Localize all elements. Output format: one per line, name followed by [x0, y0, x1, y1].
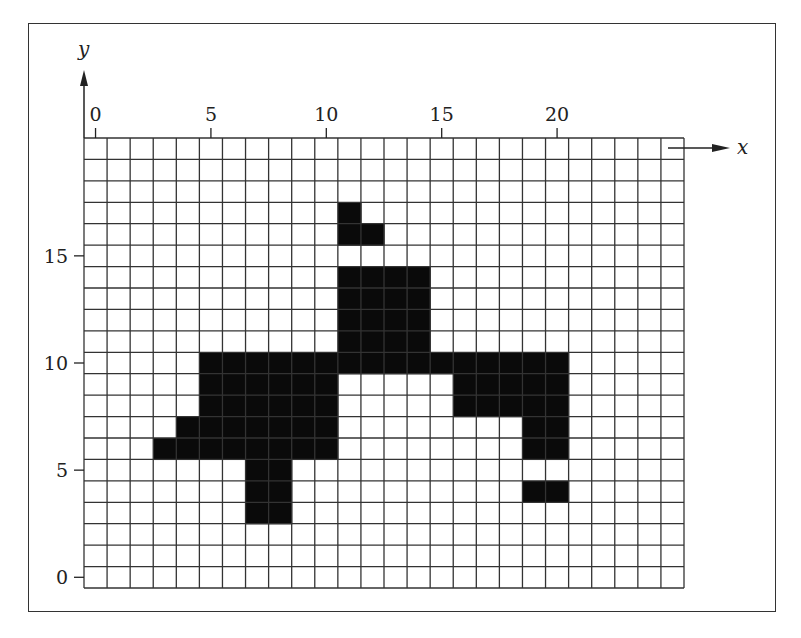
- filled-cell: [338, 352, 362, 374]
- filled-cell: [361, 288, 385, 310]
- filled-cell: [522, 374, 546, 396]
- filled-cell: [453, 395, 477, 417]
- filled-cell: [269, 502, 293, 524]
- filled-cell: [246, 417, 270, 439]
- y-tick-label: 10: [44, 352, 68, 374]
- filled-cell: [292, 417, 316, 439]
- filled-cell: [222, 395, 246, 417]
- x-axis-label: x: [737, 135, 748, 159]
- filled-cell: [269, 417, 293, 439]
- filled-cell: [269, 352, 293, 374]
- filled-cell: [246, 352, 270, 374]
- filled-cell: [269, 374, 293, 396]
- filled-cell: [246, 374, 270, 396]
- filled-cell: [176, 417, 200, 439]
- filled-cell: [292, 395, 316, 417]
- filled-cell: [546, 374, 570, 396]
- filled-cell: [338, 309, 362, 331]
- x-axis-arrowhead-icon: [712, 144, 730, 152]
- filled-cell: [384, 309, 408, 331]
- axes: y x: [77, 37, 748, 159]
- filled-cell: [476, 395, 500, 417]
- y-tick-label: 15: [44, 245, 68, 267]
- filled-cell: [361, 267, 385, 289]
- pixel-grid-diagram: y x 05101520 051015: [0, 0, 801, 638]
- filled-cell: [338, 224, 362, 246]
- filled-cell: [199, 417, 223, 439]
- y-tick-label: 0: [56, 566, 68, 588]
- y-tick-label: 5: [56, 459, 68, 481]
- filled-cell: [338, 202, 362, 224]
- filled-cell: [361, 331, 385, 353]
- filled-cell: [315, 395, 339, 417]
- filled-cell: [476, 352, 500, 374]
- filled-cell: [222, 352, 246, 374]
- filled-cell: [222, 438, 246, 460]
- filled-cell: [246, 459, 270, 481]
- filled-cell: [546, 481, 570, 503]
- filled-cell: [246, 502, 270, 524]
- filled-cell: [246, 481, 270, 503]
- filled-cell: [407, 331, 431, 353]
- filled-cell: [407, 288, 431, 310]
- filled-cell: [222, 374, 246, 396]
- filled-cell: [246, 395, 270, 417]
- filled-cell: [199, 438, 223, 460]
- filled-cell: [269, 459, 293, 481]
- x-tick-label: 0: [89, 103, 101, 125]
- filled-cell: [361, 309, 385, 331]
- x-tick-label: 5: [205, 103, 217, 125]
- filled-cell: [430, 352, 454, 374]
- filled-cell: [269, 438, 293, 460]
- x-tick-label: 20: [545, 103, 569, 125]
- filled-cell: [361, 352, 385, 374]
- x-tick-label: 10: [314, 103, 338, 125]
- filled-cell: [522, 417, 546, 439]
- filled-cell: [476, 374, 500, 396]
- filled-cell: [269, 395, 293, 417]
- filled-cell: [199, 395, 223, 417]
- filled-cell: [453, 374, 477, 396]
- y-axis-arrowhead-icon: [80, 70, 88, 86]
- filled-cell: [246, 438, 270, 460]
- filled-cell: [315, 374, 339, 396]
- filled-cell: [522, 438, 546, 460]
- filled-cell: [522, 395, 546, 417]
- x-ticks: 05101520: [89, 103, 569, 138]
- filled-cell: [315, 352, 339, 374]
- filled-cell: [407, 309, 431, 331]
- filled-cell: [338, 331, 362, 353]
- filled-cell: [384, 352, 408, 374]
- filled-cell: [499, 352, 523, 374]
- filled-cell: [522, 481, 546, 503]
- filled-cell: [384, 267, 408, 289]
- filled-cell: [407, 352, 431, 374]
- y-ticks: 051015: [44, 245, 84, 588]
- filled-cell: [453, 352, 477, 374]
- filled-cell: [338, 267, 362, 289]
- grid-lines: [84, 138, 684, 588]
- filled-cell: [546, 417, 570, 439]
- filled-cell: [384, 288, 408, 310]
- filled-cell: [407, 267, 431, 289]
- filled-cell: [315, 438, 339, 460]
- filled-cell: [522, 352, 546, 374]
- filled-cell: [199, 352, 223, 374]
- x-tick-label: 15: [430, 103, 454, 125]
- filled-cell: [338, 288, 362, 310]
- filled-cell: [499, 395, 523, 417]
- filled-cell: [546, 352, 570, 374]
- filled-cell: [292, 352, 316, 374]
- filled-cell: [499, 374, 523, 396]
- filled-cell: [315, 417, 339, 439]
- filled-cell: [546, 438, 570, 460]
- filled-cell: [222, 417, 246, 439]
- filled-cell: [292, 374, 316, 396]
- filled-cell: [176, 438, 200, 460]
- filled-cell: [269, 481, 293, 503]
- filled-cell: [153, 438, 177, 460]
- filled-cell: [292, 438, 316, 460]
- filled-cell: [199, 374, 223, 396]
- y-axis-label: y: [77, 37, 90, 61]
- filled-cell: [384, 331, 408, 353]
